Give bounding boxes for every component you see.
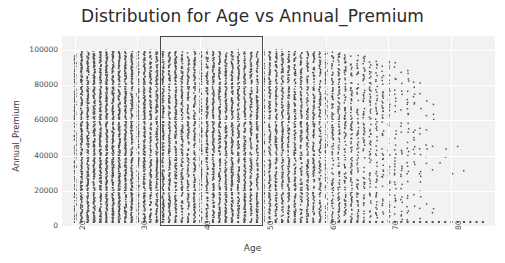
gridline-horizontal: [62, 85, 495, 86]
x-tick-label: 20: [78, 220, 87, 230]
gridline-vertical: [75, 36, 76, 226]
gridline-vertical: [326, 36, 327, 226]
gridline-vertical: [451, 36, 452, 226]
x-axis-label: Age: [0, 243, 505, 253]
gridline-horizontal: [62, 50, 495, 51]
x-tick-label: 40: [203, 220, 212, 230]
x-tick-label: 70: [391, 220, 400, 230]
y-tick-label: 0: [4, 222, 58, 230]
gridline-vertical: [200, 36, 201, 226]
gridline-horizontal: [62, 156, 495, 157]
gridline-vertical: [137, 36, 138, 226]
x-tick-label: 50: [266, 220, 275, 230]
y-tick-label: 20000: [4, 187, 58, 195]
x-tick-label: 80: [454, 220, 463, 230]
gridline-horizontal: [62, 191, 495, 192]
y-tick-label: 100000: [4, 46, 58, 54]
x-tick-label: 60: [329, 220, 338, 230]
scatter-points-canvas: [62, 36, 495, 226]
gridline-vertical: [263, 36, 264, 226]
y-axis-label: Annual_Premium: [11, 96, 21, 176]
gridline-horizontal: [62, 120, 495, 121]
page-title: Distribution for Age vs Annual_Premium: [0, 6, 505, 26]
scatter-plot-figure: Distribution for Age vs Annual_Premium 0…: [0, 0, 505, 263]
y-axis-ticks: 020000400006000080000100000: [0, 0, 58, 263]
plot-area[interactable]: [62, 36, 495, 226]
y-tick-label: 80000: [4, 81, 58, 89]
x-tick-label: 30: [140, 220, 149, 230]
gridline-vertical: [388, 36, 389, 226]
